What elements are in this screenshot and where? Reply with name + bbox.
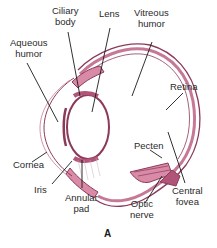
eye-diagram: Ciliary body Lens Vitreous humor Aqueous… bbox=[0, 0, 217, 248]
panel-letter: A bbox=[104, 228, 111, 239]
label-line: fovea bbox=[172, 197, 203, 208]
label-line: Pecten bbox=[134, 141, 164, 152]
label-line: Iris bbox=[34, 185, 47, 196]
label-line: Retina bbox=[170, 82, 197, 93]
label-lens: Lens bbox=[99, 9, 120, 20]
label-line: Vitreous bbox=[134, 8, 169, 19]
label-pecten: Pecten bbox=[134, 141, 164, 152]
label-line: Central bbox=[172, 186, 203, 197]
label-central-fovea: Central fovea bbox=[172, 186, 203, 207]
label-line: pad bbox=[65, 204, 98, 215]
label-line: Lens bbox=[99, 9, 120, 20]
label-line: Ciliary bbox=[52, 6, 78, 17]
label-retina: Retina bbox=[170, 82, 197, 93]
label-line: Cornea bbox=[13, 160, 44, 171]
label-iris: Iris bbox=[34, 185, 47, 196]
label-line: Aqueous bbox=[10, 38, 48, 49]
label-line: Optic bbox=[130, 199, 154, 210]
label-line: body bbox=[52, 17, 78, 28]
label-line: nerve bbox=[130, 210, 154, 221]
label-cornea: Cornea bbox=[13, 160, 44, 171]
lens bbox=[67, 95, 109, 159]
label-aqueous-humor: Aqueous humor bbox=[10, 38, 48, 59]
label-annular-pad: Annular pad bbox=[65, 193, 98, 214]
label-line: Annular bbox=[65, 193, 98, 204]
label-ciliary-body: Ciliary body bbox=[52, 6, 78, 27]
label-line: humor bbox=[10, 49, 48, 60]
label-line: humor bbox=[134, 19, 169, 30]
label-vitreous-humor: Vitreous humor bbox=[134, 8, 169, 29]
label-optic-nerve: Optic nerve bbox=[130, 199, 154, 220]
iris bbox=[64, 108, 66, 146]
